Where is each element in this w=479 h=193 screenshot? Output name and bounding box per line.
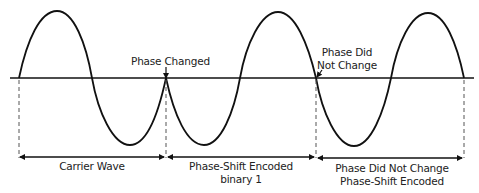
segment-label-binary1-line1: Phase-Shift Encoded bbox=[170, 160, 312, 173]
phase-did-not-change-line1: Phase Did bbox=[310, 46, 384, 59]
segment-label-binary1-line2: binary 1 bbox=[170, 173, 312, 186]
phase-did-not-change-line2: Not Change bbox=[310, 59, 384, 72]
segment-label-no-change-line2: Phase-Shift Encoded bbox=[322, 175, 462, 188]
phase-did-not-change-label: Phase Did Not Change bbox=[310, 46, 384, 72]
phase-changed-label: Phase Changed bbox=[131, 55, 203, 68]
segment-label-carrier-line1: Carrier Wave bbox=[40, 160, 144, 173]
segment-label-no-change-line1: Phase Did Not Change bbox=[322, 162, 462, 175]
phase-shift-diagram: Phase Changed Phase Did Not Change Carri… bbox=[0, 0, 479, 193]
segment-label-carrier: Carrier Wave bbox=[40, 160, 144, 173]
no-change-curve bbox=[316, 13, 464, 146]
segment-label-binary1: Phase-Shift Encoded binary 1 bbox=[170, 160, 312, 186]
segment-label-no-change: Phase Did Not Change Phase-Shift Encoded bbox=[322, 162, 462, 188]
